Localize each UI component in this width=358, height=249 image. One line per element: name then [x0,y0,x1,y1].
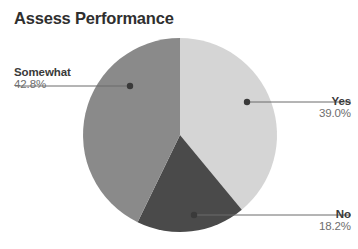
pie-label-no-percent: 18.2% [319,220,351,232]
pie-label-no-category: No [319,208,351,220]
pie-label-yes: Yes 39.0% [319,95,351,120]
pie-label-somewhat-percent: 42.8% [14,78,71,90]
pie-label-yes-percent: 39.0% [319,107,351,119]
pie-label-no: No 18.2% [319,208,351,233]
pie-chart [0,0,358,249]
pie-label-yes-category: Yes [319,95,351,107]
chart-canvas: Assess Performance Somewhat 42.8% Yes 39… [0,0,358,249]
pie-label-somewhat: Somewhat 42.8% [14,66,71,91]
pie-label-somewhat-category: Somewhat [14,66,71,78]
